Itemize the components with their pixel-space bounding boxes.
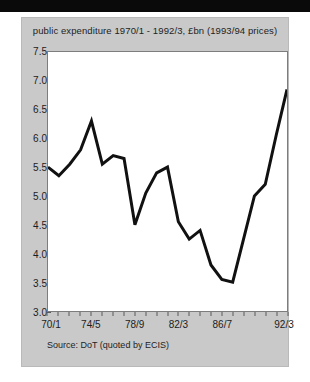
x-tick-label: 82/3 [169, 319, 188, 330]
x-tick-label: 86/7 [213, 319, 232, 330]
x-tick-mark [156, 312, 157, 316]
x-tick-mark [222, 312, 223, 316]
x-tick-mark [134, 312, 135, 316]
y-tick-label: 5.0 [23, 191, 47, 202]
x-tick-label: 74/5 [81, 319, 100, 330]
x-axis: 70/174/578/982/386/792/3 [47, 312, 288, 338]
x-tick-mark [57, 312, 58, 316]
line-chart-svg [48, 52, 287, 311]
y-tick-label: 3.0 [23, 307, 47, 318]
x-tick-mark [189, 312, 190, 316]
plot-area [47, 51, 288, 312]
x-tick-mark [178, 312, 179, 316]
y-tick-label: 4.5 [23, 220, 47, 231]
y-tick-label: 6.5 [23, 104, 47, 115]
x-tick-mark [47, 312, 48, 316]
x-tick-mark [101, 312, 102, 316]
y-tick-label: 6.0 [23, 133, 47, 144]
y-tick-label: 4.0 [23, 249, 47, 260]
x-tick-mark [79, 312, 80, 316]
y-axis: 3.03.54.04.55.05.56.06.57.07.5 [22, 18, 47, 346]
x-tick-mark [233, 312, 234, 316]
x-tick-mark [123, 312, 124, 316]
x-tick-label: 70/1 [41, 319, 60, 330]
x-tick-mark [244, 312, 245, 316]
x-tick-mark [145, 312, 146, 316]
source-note: Source: DoT (quoted by ECIS) [47, 340, 169, 350]
x-tick-mark [277, 312, 278, 316]
y-tick-label: 7.5 [23, 46, 47, 57]
chart-title: public expenditure 1970/1 - 1992/3, £bn … [22, 25, 288, 36]
x-tick-label: 78/9 [125, 319, 144, 330]
y-tick-label: 5.5 [23, 162, 47, 173]
x-tick-mark [167, 312, 168, 316]
x-tick-mark [200, 312, 201, 316]
y-tick-label: 7.0 [23, 75, 47, 86]
chart-figure: public expenditure 1970/1 - 1992/3, £bn … [22, 18, 288, 366]
x-tick-mark [112, 312, 113, 316]
y-tick-label: 3.5 [23, 278, 47, 289]
x-tick-mark [266, 312, 267, 316]
x-tick-mark [211, 312, 212, 316]
x-tick-mark [68, 312, 69, 316]
x-tick-mark [90, 312, 91, 316]
data-series-line [48, 89, 287, 282]
top-black-bar [0, 0, 310, 12]
x-tick-label: 92/3 [274, 319, 293, 330]
x-tick-mark [288, 312, 289, 316]
x-tick-mark [255, 312, 256, 316]
